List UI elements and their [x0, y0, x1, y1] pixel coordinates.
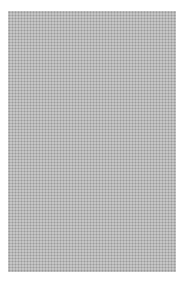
halftone-dot-pattern	[8, 11, 176, 272]
canvas	[0, 0, 187, 282]
